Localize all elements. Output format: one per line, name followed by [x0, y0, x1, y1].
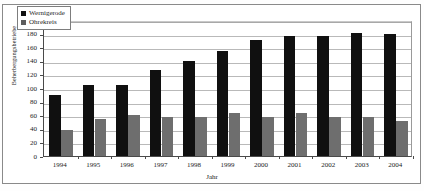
- bar: [262, 117, 274, 156]
- y-tick-mark: [40, 116, 43, 117]
- bar: [95, 119, 107, 156]
- x-tick-mark: [245, 156, 246, 159]
- legend-item: Wernigerode: [21, 9, 65, 18]
- legend-swatch-wernigerode: [21, 11, 26, 16]
- y-tick-label: 40: [15, 126, 37, 133]
- legend-item: Ohrekreis: [21, 18, 65, 27]
- bar: [83, 85, 95, 156]
- y-tick-label: 180: [15, 31, 37, 38]
- y-tick-label: 120: [15, 72, 37, 79]
- y-tick-mark: [40, 103, 43, 104]
- x-tick-mark: [379, 156, 380, 159]
- bar: [250, 40, 262, 156]
- plot-area: [43, 21, 412, 157]
- y-tick-label: 0: [15, 154, 37, 161]
- bar: [296, 113, 308, 156]
- y-tick-label: 100: [15, 86, 37, 93]
- bar: [116, 85, 128, 156]
- bar: [162, 117, 174, 156]
- x-tick-mark: [212, 156, 213, 159]
- bar: [384, 34, 396, 156]
- bar: [329, 117, 341, 156]
- bar: [61, 130, 73, 156]
- x-tick-mark: [413, 156, 414, 159]
- y-tick-mark: [40, 48, 43, 49]
- bar: [396, 121, 408, 156]
- legend-label-wernigerode: Wernigerode: [29, 9, 65, 18]
- y-tick-mark: [40, 143, 43, 144]
- x-axis-title: Jahr: [0, 173, 424, 181]
- y-tick-mark: [40, 130, 43, 131]
- bar: [351, 33, 363, 156]
- y-tick-mark: [40, 62, 43, 63]
- bar: [317, 36, 329, 156]
- y-tick-label: 20: [15, 140, 37, 147]
- bar: [217, 51, 229, 156]
- x-tick-mark: [178, 156, 179, 159]
- x-tick-mark: [279, 156, 280, 159]
- x-tick-label: 2004: [372, 161, 418, 169]
- x-tick-mark: [78, 156, 79, 159]
- bar: [284, 36, 296, 156]
- bar: [195, 117, 207, 156]
- bar: [128, 115, 140, 156]
- y-tick-label: 80: [15, 99, 37, 106]
- y-tick-label: 160: [15, 45, 37, 52]
- y-tick-label: 140: [15, 58, 37, 65]
- bar: [363, 117, 375, 156]
- x-tick-mark: [312, 156, 313, 159]
- y-tick-mark: [40, 75, 43, 76]
- y-tick-mark: [40, 35, 43, 36]
- bar: [183, 61, 195, 156]
- bar: [229, 113, 241, 156]
- bar: [150, 70, 162, 156]
- x-tick-mark: [346, 156, 347, 159]
- x-tick-mark: [145, 156, 146, 159]
- chart-figure: Beherbergungsbetriebe 020406080100120140…: [0, 0, 424, 191]
- gridline: [44, 22, 411, 23]
- bar: [49, 95, 61, 156]
- legend-swatch-ohrekreis: [21, 20, 26, 25]
- legend-label-ohrekreis: Ohrekreis: [29, 18, 57, 27]
- x-tick-mark: [111, 156, 112, 159]
- chart-legend: Wernigerode Ohrekreis: [17, 6, 71, 30]
- y-tick-mark: [40, 157, 43, 158]
- y-tick-mark: [40, 89, 43, 90]
- y-tick-label: 60: [15, 113, 37, 120]
